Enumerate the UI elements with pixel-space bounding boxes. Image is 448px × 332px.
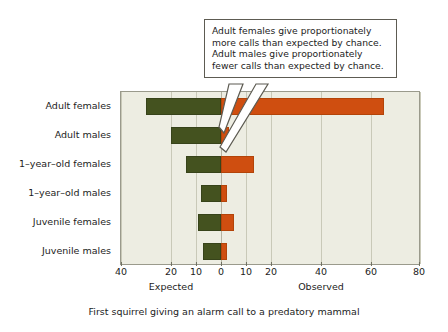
x-tick-left-40: 40: [115, 266, 127, 277]
bar-expected-adult-males: [171, 127, 221, 144]
x-tick-right-80: 80: [413, 266, 425, 277]
callout-line-3: Adult males give proportionately: [212, 48, 389, 60]
bar-observed-1yo-males: [221, 185, 227, 202]
bar-expected-juvenile-females: [198, 214, 221, 231]
bar-observed-juvenile-females: [221, 214, 234, 231]
bar-observed-adult-females: [221, 98, 384, 115]
bar-row-juvenile-females: [121, 208, 419, 237]
bar-expected-adult-females: [146, 98, 221, 115]
x-axis-ticks: 40 20 10 0 10 20 40 60 80: [0, 266, 448, 280]
x-tick-right-10: 10: [240, 266, 252, 277]
y-label-adult-females: Adult females: [46, 91, 111, 120]
axis-group-label-expected: Expected: [149, 281, 193, 292]
y-label-1yo-males: 1–year–old males: [28, 178, 111, 207]
bar-expected-juvenile-males: [203, 243, 221, 260]
bar-expected-1yo-males: [201, 185, 221, 202]
callout-line-4: fewer calls than expected by chance.: [212, 60, 389, 72]
bar-row-1yo-females: [121, 150, 419, 179]
y-label-adult-males: Adult males: [55, 120, 111, 149]
bar-expected-1yo-females: [186, 156, 221, 173]
y-label-1yo-females: 1–year–old females: [19, 149, 111, 178]
y-label-juvenile-males: Juvenile males: [42, 236, 111, 265]
x-tick-zero: 0: [218, 266, 224, 277]
chart-caption: First squirrel giving an alarm call to a…: [0, 306, 448, 317]
bar-row-adult-males: [121, 121, 419, 150]
figure-squirrel-alarm-call: Adult females Adult males 1–year–old fem…: [0, 0, 448, 332]
x-tick-right-20: 20: [265, 266, 277, 277]
bar-observed-1yo-females: [221, 156, 254, 173]
y-axis-labels: Adult females Adult males 1–year–old fem…: [0, 91, 115, 265]
callout-annotation: Adult females give proportionately more …: [204, 19, 397, 78]
bar-row-adult-females: [121, 92, 419, 121]
y-label-juvenile-females: Juvenile females: [33, 207, 111, 236]
bar-row-juvenile-males: [121, 237, 419, 266]
x-tick-right-40: 40: [315, 266, 327, 277]
x-tick-left-10: 10: [190, 266, 202, 277]
callout-line-1: Adult females give proportionately: [212, 25, 389, 37]
bar-row-1yo-males: [121, 179, 419, 208]
gridline-right-80: [420, 92, 421, 264]
callout-line-2: more calls than expected by chance.: [212, 37, 389, 49]
plot-area: [120, 91, 420, 265]
x-tick-left-20: 20: [165, 266, 177, 277]
x-tick-right-60: 60: [365, 266, 377, 277]
bar-observed-adult-males: [221, 127, 229, 144]
axis-group-label-observed: Observed: [298, 281, 344, 292]
bar-observed-juvenile-males: [221, 243, 227, 260]
